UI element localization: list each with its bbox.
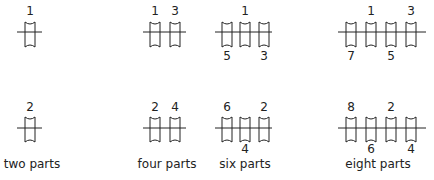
part-number: 1 [26,5,34,17]
pulley-sheave [170,22,180,47]
pulley-sheave [346,117,356,142]
part-number: 4 [241,143,249,155]
pulley-sheave [25,22,35,47]
part-number: 5 [387,50,395,62]
part-number: 6 [223,101,231,113]
pulley-sheave [386,117,396,142]
pulley-sheave [366,117,376,142]
part-number: 3 [260,50,268,62]
pulley-sheave [222,22,232,47]
part-number: 2 [387,101,395,113]
part-number: 3 [171,5,179,17]
pulley-sheave [406,117,416,142]
part-number: 2 [26,101,34,113]
pulley-sheave [170,117,180,142]
pulley-reeving-diagram: 12132415362413758264 two parts four part… [0,0,434,180]
part-number: 4 [171,101,179,113]
caption-six-parts: six parts [219,157,270,171]
part-number: 5 [223,50,231,62]
pulley-sheave [25,117,35,142]
pulley-sheave [259,22,269,47]
pulley-sheave [406,22,416,47]
pulley-sheave [150,22,160,47]
part-number: 2 [260,101,268,113]
part-number: 4 [407,143,415,155]
pulley-sheave [240,117,250,142]
pulley-sheave [386,22,396,47]
part-number: 8 [347,101,355,113]
caption-two-parts: two parts [4,157,61,171]
pulley-sheave [240,22,250,47]
pulley-sheave [346,22,356,47]
caption-eight-parts: eight parts [345,157,410,171]
pulley-sheave [366,22,376,47]
pulley-sheave [259,117,269,142]
part-number: 1 [151,5,159,17]
part-number: 1 [367,5,375,17]
caption-four-parts: four parts [138,157,197,171]
part-number: 7 [347,50,355,62]
part-number: 6 [367,143,375,155]
part-number: 2 [151,101,159,113]
pulley-sheave [222,117,232,142]
part-number: 3 [407,5,415,17]
part-number: 1 [241,5,249,17]
pulley-sheave [150,117,160,142]
